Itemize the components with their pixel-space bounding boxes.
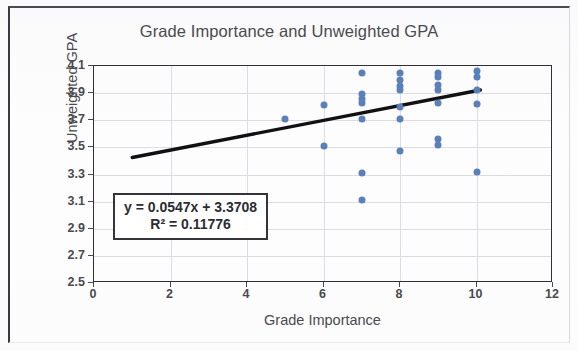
scatter-point	[358, 69, 365, 76]
x-axis-tick-mark	[246, 282, 247, 287]
scatter-point	[358, 170, 365, 177]
scatter-point	[473, 100, 480, 107]
y-axis-tick-label: 3.5	[68, 139, 85, 153]
gridline-horizontal	[94, 256, 551, 257]
gridline-vertical	[247, 66, 248, 281]
y-axis-tick-label: 3.3	[68, 167, 85, 181]
y-axis-tick-label: 3.7	[68, 112, 85, 126]
x-axis-tick-label: 0	[90, 287, 97, 301]
x-axis-tick-mark	[323, 282, 324, 287]
x-axis-tick-label: 12	[545, 287, 559, 301]
x-axis-title: Grade Importance	[93, 312, 552, 328]
y-axis-tick-label: 3.9	[68, 85, 85, 99]
scatter-point	[397, 148, 404, 155]
trendline-equation-text: y = 0.0547x + 3.3708	[124, 199, 257, 216]
gridline-vertical	[324, 66, 325, 281]
gridline-vertical	[400, 66, 401, 281]
scatter-point	[397, 115, 404, 122]
scatter-point	[320, 102, 327, 109]
trendline	[94, 66, 551, 281]
scatter-point	[320, 143, 327, 150]
trendline-r-squared-text: R² = 0.11776	[124, 216, 257, 233]
x-axis-tick-label: 6	[319, 287, 326, 301]
y-axis-tick-label: 4.1	[68, 58, 85, 72]
gridline-horizontal	[94, 175, 551, 176]
scatter-point	[435, 141, 442, 148]
scatter-point	[358, 99, 365, 106]
x-axis-tick-mark	[552, 282, 553, 287]
chart-screenshot: Grade Importance and Unweighted GPA Unwe…	[0, 0, 578, 351]
x-axis-tick-mark	[476, 282, 477, 287]
trendline-equation-box: y = 0.0547x + 3.3708 R² = 0.11776	[113, 193, 268, 240]
scatter-point	[473, 168, 480, 175]
scatter-point	[435, 87, 442, 94]
scatter-point	[358, 197, 365, 204]
chart-title: Grade Importance and Unweighted GPA	[0, 22, 578, 41]
x-axis-tick-mark	[93, 282, 94, 287]
scatter-point	[435, 99, 442, 106]
scatter-point	[358, 115, 365, 122]
y-axis-tick-label: 2.7	[68, 248, 85, 262]
x-axis-tick-label: 10	[469, 287, 483, 301]
scatter-point	[435, 73, 442, 80]
scatter-point	[473, 73, 480, 80]
scatter-point	[282, 115, 289, 122]
scatter-point	[473, 87, 480, 94]
x-axis-tick-label: 8	[396, 287, 403, 301]
x-axis-tick-mark	[399, 282, 400, 287]
y-axis-tick-label: 2.5	[68, 275, 85, 289]
x-axis-tick-label: 2	[166, 287, 173, 301]
plot-area: y = 0.0547x + 3.3708 R² = 0.11776	[93, 65, 552, 282]
y-axis-tick-label: 3.1	[68, 194, 85, 208]
x-axis-tick-label: 4	[243, 287, 250, 301]
scatter-point	[397, 87, 404, 94]
y-axis-tick-label: 2.9	[68, 221, 85, 235]
gridline-vertical	[171, 66, 172, 281]
gridline-horizontal	[94, 93, 551, 94]
scatter-point	[397, 103, 404, 110]
x-axis-tick-mark	[170, 282, 171, 287]
gridline-horizontal	[94, 120, 551, 121]
